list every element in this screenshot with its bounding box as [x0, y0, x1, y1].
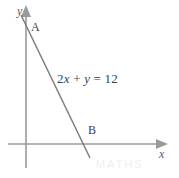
y-axis-arrowhead: [21, 5, 31, 17]
line-graph-figure: y x A B 2x + y = 12 MATHS: [0, 0, 179, 178]
y-axis-label: y: [17, 5, 22, 17]
equation-var-x: x: [64, 71, 70, 86]
equation-label: 2x + y = 12: [57, 72, 118, 85]
equation-coefficient: 2: [57, 71, 64, 86]
equation-plus-sign: +: [73, 71, 81, 86]
equation-var-y: y: [84, 71, 90, 86]
watermark-text: MATHS: [96, 158, 176, 174]
equation-equals-sign: =: [94, 71, 102, 86]
equation-constant: 12: [105, 71, 118, 86]
point-label-b: B: [88, 124, 96, 136]
graph-canvas: [0, 0, 179, 178]
plotted-line: [21, 15, 90, 158]
point-label-a: A: [31, 21, 40, 33]
